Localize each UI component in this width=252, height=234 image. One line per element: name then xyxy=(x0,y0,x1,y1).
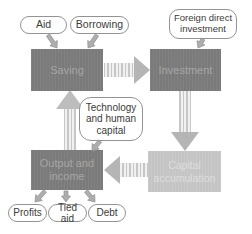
node-saving: Saving xyxy=(31,49,103,91)
arrow-output-to-profits-icon xyxy=(35,190,47,202)
pill-borrowing: Borrowing xyxy=(70,16,129,34)
flow-diagram: Saving Investment Output and income Capi… xyxy=(0,0,252,234)
arrow-output-to-tiedaid-icon xyxy=(62,191,71,202)
arrow-shaft xyxy=(104,63,136,77)
arrow-shaft xyxy=(64,108,76,151)
pill-fdi-label: Foreign direct investment xyxy=(173,13,233,34)
arrow-aid-to-saving-icon xyxy=(46,34,57,48)
arrow-shaft xyxy=(119,163,149,177)
pill-tied-aid-label: Tied aid xyxy=(50,202,85,224)
node-output-income: Output and income xyxy=(31,150,103,190)
arrow-borrowing-to-saving-icon xyxy=(88,34,99,48)
arrow-output-to-debt-icon xyxy=(85,190,96,202)
pill-tied-aid: Tied aid xyxy=(48,204,87,222)
pill-foreign-direct-investment: Foreign direct investment xyxy=(169,9,237,39)
node-output-income-label: Output and income xyxy=(37,157,97,182)
node-capital-accumulation-label: Capital accumulation xyxy=(150,159,219,183)
pill-profits-label: Profits xyxy=(13,207,41,218)
arrow-shaft xyxy=(179,91,191,133)
arrow-head-down-icon xyxy=(171,132,199,151)
pill-aid: Aid xyxy=(20,16,67,34)
pill-borrowing-label: Borrowing xyxy=(76,19,123,31)
node-investment: Investment xyxy=(150,49,221,91)
pill-debt: Debt xyxy=(88,204,126,222)
pill-profits: Profits xyxy=(8,204,47,222)
node-saving-label: Saving xyxy=(50,64,84,77)
arrow-investment-to-capital xyxy=(171,91,199,151)
arrow-saving-to-investment xyxy=(104,56,150,84)
arrow-fdi-to-investment-icon xyxy=(197,38,205,48)
pill-aid-label: Aid xyxy=(36,19,51,31)
pill-technology-human-capital: Technology and human capital xyxy=(79,97,143,141)
pill-debt-label: Debt xyxy=(96,207,117,218)
arrow-head-left-icon xyxy=(104,156,120,184)
arrow-capital-to-output xyxy=(104,156,149,184)
node-investment-label: Investment xyxy=(159,64,213,77)
arrow-head-right-icon xyxy=(134,56,150,84)
node-capital-accumulation: Capital accumulation xyxy=(148,151,221,192)
pill-technology-label: Technology and human capital xyxy=(84,102,138,136)
